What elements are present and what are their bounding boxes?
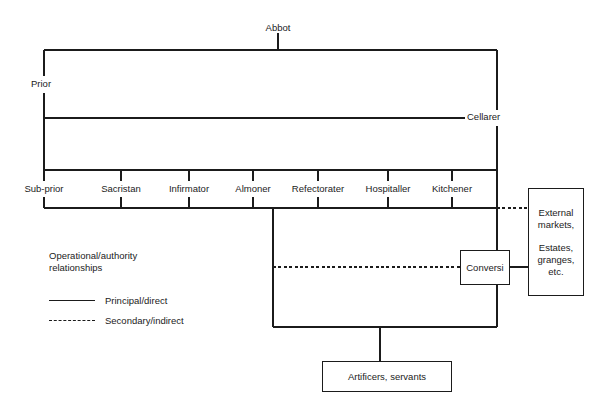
node-infirmator[interactable]: Infirmator — [167, 183, 211, 194]
external-markets-line1: External — [538, 207, 574, 219]
legend-principal-label: Principal/direct — [105, 295, 167, 306]
node-refectorater[interactable]: Refectorater — [290, 183, 346, 194]
estates-line3: etc. — [538, 266, 575, 278]
legend-secondary-label: Secondary/indirect — [105, 315, 184, 326]
node-sub-prior[interactable]: Sub-prior — [22, 183, 65, 194]
node-conversi-label: Conversi — [466, 262, 504, 274]
legend-title-line2: relationships — [49, 262, 137, 274]
legend-solid-line-icon — [49, 300, 95, 301]
legend-entry-principal: Principal/direct — [49, 295, 167, 306]
estates-line1: Estates, — [538, 242, 575, 254]
estates-granges-group: Estates, granges, etc. — [538, 242, 575, 278]
legend-dashed-line-icon — [49, 320, 95, 321]
node-almoner[interactable]: Almoner — [233, 183, 272, 194]
external-markets-line2: markets, — [538, 219, 574, 231]
legend-entry-secondary: Secondary/indirect — [49, 315, 184, 326]
external-markets-group: External markets, — [538, 207, 574, 231]
node-kitchener[interactable]: Kitchener — [430, 183, 474, 194]
node-prior[interactable]: Prior — [29, 78, 53, 89]
node-artificers-box[interactable]: Artificers, servants — [322, 361, 452, 392]
estates-line2: granges, — [538, 254, 575, 266]
node-abbot[interactable]: Abbot — [264, 22, 293, 33]
node-sacristan[interactable]: Sacristan — [99, 183, 143, 194]
node-external-estates-box[interactable]: External markets, Estates, granges, etc. — [528, 188, 584, 296]
node-cellarer[interactable]: Cellarer — [465, 111, 502, 122]
diagram-connector-lines — [0, 0, 607, 414]
node-conversi-box[interactable]: Conversi — [460, 250, 510, 285]
legend-title: Operational/authority relationships — [49, 250, 137, 274]
node-artificers-label: Artificers, servants — [348, 371, 426, 383]
node-hospitaller[interactable]: Hospitaller — [364, 183, 413, 194]
org-chart-diagram: Abbot Prior Cellarer Sub-prior Sacristan… — [0, 0, 607, 414]
legend-title-line1: Operational/authority — [49, 250, 137, 262]
